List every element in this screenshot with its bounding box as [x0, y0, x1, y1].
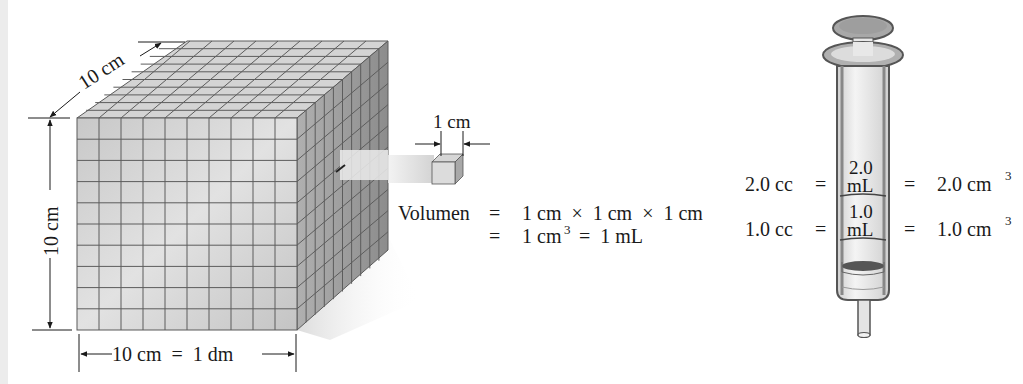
syringe: 2.0 mL 1.0 mL: [823, 16, 903, 338]
page-edge: [0, 0, 8, 384]
equals-upper-left: =: [815, 173, 826, 195]
volume-term: Volumen: [398, 202, 470, 224]
syringe-tip: [858, 300, 870, 335]
cc-label-lower: 1.0 cc: [745, 218, 793, 240]
equals-sign-2: =: [489, 225, 500, 247]
equals-lower-left: =: [815, 218, 826, 240]
depth-label: 10 cm: [74, 48, 128, 94]
exponent: 3: [564, 222, 571, 237]
liter-cube: [77, 41, 420, 340]
inner-unit-lower: mL: [847, 219, 873, 240]
exponent-lower: 3: [1005, 213, 1012, 228]
width-label: 10 cm = 1 dm: [112, 343, 234, 365]
volume-ml: = 1 mL: [579, 225, 643, 247]
equals-lower-right: =: [904, 218, 915, 240]
small-cube: [432, 162, 455, 184]
volume-cm3: 1 cm: [522, 225, 562, 247]
extraction-beam: [388, 155, 434, 183]
inner-unit-upper: mL: [847, 175, 873, 196]
equals-sign: =: [489, 202, 500, 224]
extraction-beam-inner: [340, 150, 388, 180]
exponent-upper: 3: [1005, 168, 1012, 183]
cc-label-upper: 2.0 cc: [745, 173, 793, 195]
height-dimension: 10 cm: [32, 120, 72, 330]
height-label: 10 cm: [40, 206, 62, 256]
cm3-label-lower: 1.0 cm: [937, 218, 992, 240]
equals-upper-right: =: [904, 173, 915, 195]
volume-equation: Volumen = 1 cm × 1 cm × 1 cm = 1 cm 3 = …: [398, 202, 703, 247]
width-dimension: 10 cm = 1 dm: [79, 334, 296, 372]
small-cube-label: 1 cm: [433, 111, 471, 132]
plunger-stopper: [842, 261, 884, 271]
cm3-label-upper: 2.0 cm: [937, 173, 992, 195]
volume-product: 1 cm × 1 cm × 1 cm: [522, 202, 703, 224]
volume-diagram: 1 cm 10 cm 10 cm 10 cm = 1 dm Volumen = …: [0, 0, 1023, 384]
